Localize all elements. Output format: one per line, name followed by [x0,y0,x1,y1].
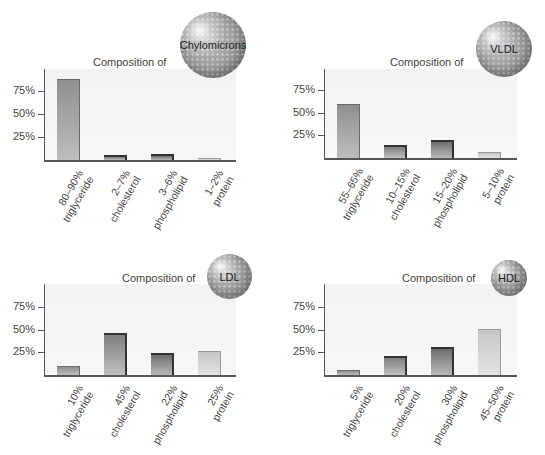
y-tick [38,137,44,138]
y-tick-label: 50% [279,323,315,335]
chart-title: Composition of [390,56,463,68]
y-tick-label: 75% [0,300,35,312]
x-label-cholesterol: 10–15%cholesterol [376,166,422,222]
x-label-triglyceride: 5%triglyceride [329,383,375,439]
y-tick [38,352,44,353]
x-label-phospholipid: 3–6%phospholipid [139,168,189,231]
bar-protein [478,152,501,158]
y-axis [44,284,45,375]
y-tick-label: 25% [0,130,35,142]
x-label-protein: 1–2%protein [199,168,236,208]
x-label-cholesterol: 45%cholesterol [96,383,142,439]
x-axis [324,375,517,377]
x-axis [324,158,517,160]
bar-cholesterol [104,155,127,160]
y-tick [38,330,44,331]
bar-cholesterol [384,145,407,158]
bar-triglyceride [337,104,360,158]
y-tick-label: 25% [0,345,35,357]
y-tick-label: 25% [279,128,315,140]
y-axis [324,284,325,375]
y-tick [38,307,44,308]
lipoprotein-sphere-icon: VLDL [476,21,532,77]
bar-phospholipid [431,347,454,375]
y-tick [318,113,324,114]
chart-title: Composition of [93,56,166,68]
y-tick-label: 75% [279,300,315,312]
x-label-triglyceride: 80–90%triglyceride [49,168,95,224]
chart-panel-3: 75%50%25%Composition of5%triglyceride20%… [272,227,544,454]
x-label-protein: 25%protein [199,383,236,423]
chart-title: Composition of [122,272,195,284]
chart-title: Composition of [402,272,475,284]
y-tick [318,307,324,308]
chart-panel-2: 75%50%25%Composition of10%triglyceride45… [0,227,272,454]
y-axis [324,69,325,158]
chart-panel-1: 75%50%25%Composition of55–65%triglycerid… [272,0,544,227]
y-tick [318,352,324,353]
particle-name: HDL [498,272,520,284]
particle-name: LDL [219,271,239,283]
x-label-cholesterol: 20%cholesterol [376,383,422,439]
y-tick [38,91,44,92]
x-axis [44,375,236,377]
bar-protein [198,158,221,160]
bar-cholesterol [384,356,407,375]
bar-triglyceride [57,366,80,375]
x-label-protein: 5–10%protein [479,166,516,206]
bar-protein [198,351,221,375]
y-tick [318,135,324,136]
x-label-triglyceride: 55–65%triglyceride [329,166,375,222]
x-label-phospholipid: 15–20%phospholipid [419,166,469,229]
y-tick-label: 25% [279,345,315,357]
bar-phospholipid [151,154,174,160]
particle-name: VLDL [490,43,518,55]
y-tick [38,114,44,115]
y-tick [318,330,324,331]
y-tick-label: 75% [0,84,35,96]
lipoprotein-sphere-icon: HDL [491,260,527,296]
bar-protein [478,329,501,375]
x-label-cholesterol: 2–7%cholesterol [96,168,142,224]
bar-cholesterol [104,333,127,375]
x-axis [44,160,236,162]
y-tick [318,90,324,91]
y-axis [44,69,45,160]
bar-triglyceride [57,79,80,160]
chart-panel-0: 75%50%25%Composition of80–90%triglycerid… [0,0,272,227]
lipoprotein-sphere-icon: Chylomicrons [180,12,246,78]
y-tick-label: 50% [0,323,35,335]
bar-phospholipid [431,140,454,158]
x-label-protein: 45–50%protein [476,383,516,428]
particle-name: Chylomicrons [180,39,247,51]
x-label-phospholipid: 30%phospholipid [419,383,469,446]
bar-phospholipid [151,353,174,375]
lipoprotein-sphere-icon: LDL [207,254,252,299]
x-label-triglyceride: 10%triglyceride [49,383,95,439]
x-label-phospholipid: 22%phospholipid [139,383,189,446]
bar-triglyceride [337,370,360,375]
y-tick-label: 75% [279,83,315,95]
y-tick-label: 50% [0,107,35,119]
y-tick-label: 50% [279,106,315,118]
